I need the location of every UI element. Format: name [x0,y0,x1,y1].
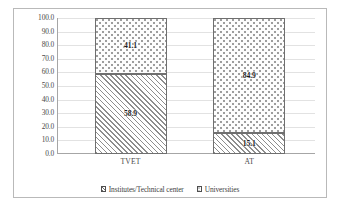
chart-legend: Institutes/Technical centerUniversities [14,182,326,196]
bar-segment-universities[interactable]: 41.1 [95,18,167,74]
y-axis-tick-label: 60.0 [13,68,54,76]
chart-container: 100.090.080.070.060.050.040.030.020.010.… [0,0,340,211]
dots-swatch-icon [197,186,203,192]
gridline [58,154,315,155]
bar-group[interactable]: 84.915.1 [213,18,285,154]
y-axis-tick-label: 20.0 [13,123,54,131]
bar-group[interactable]: 41.158.9 [95,18,167,154]
legend-item-label: Institutes/Technical center [109,185,184,194]
y-axis-tick-label: 70.0 [13,55,54,63]
x-axis-tick-label: TVET [86,157,176,167]
hatch-swatch-icon [101,186,107,192]
bar-value-label: 15.1 [243,139,256,148]
bars-layer: 41.158.984.915.1 [57,18,315,154]
legend-item[interactable]: Institutes/Technical center [101,185,184,194]
y-axis-tick-label: 30.0 [13,109,54,117]
y-axis-tick-label: 0.0 [13,150,54,158]
legend-item-label: Universities [205,185,240,194]
y-axis-tick-label: 10.0 [13,136,54,144]
y-axis-tick-label: 50.0 [13,82,54,90]
y-axis-tick-label: 80.0 [13,41,54,49]
x-axis-tick-label: AT [204,157,294,167]
y-axis-labels: 100.090.080.070.060.050.040.030.020.010.… [13,18,54,154]
bar-value-label: 84.9 [243,71,256,80]
bar-value-label: 41.1 [124,41,137,50]
bar-segment-institutes[interactable]: 15.1 [213,133,285,154]
y-axis-tick-label: 100.0 [13,14,54,22]
legend-item[interactable]: Universities [197,185,240,194]
y-axis-tick-label: 90.0 [13,28,54,36]
x-axis-labels: TVETAT [57,157,315,171]
bar-value-label: 58.9 [124,109,137,118]
bar-segment-institutes[interactable]: 58.9 [95,74,167,154]
bar-segment-universities[interactable]: 84.9 [213,18,285,133]
y-axis-tick-label: 40.0 [13,96,54,104]
